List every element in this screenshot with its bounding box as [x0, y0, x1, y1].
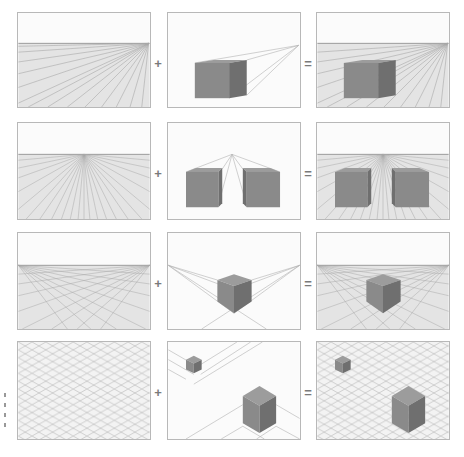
row1-grid-panel — [17, 12, 151, 108]
row3-result-panel — [316, 232, 450, 330]
row3-grid-panel — [17, 232, 151, 330]
row1-object-panel — [167, 12, 301, 108]
equals-operator: = — [301, 167, 315, 181]
two-isometric-cubes-diagram — [168, 342, 300, 439]
row1-result-panel — [316, 12, 450, 108]
plus-operator: + — [151, 57, 165, 71]
two-boxes-in-central-grid-diagram — [317, 123, 449, 219]
cube-front — [195, 63, 229, 98]
row4-grid-panel — [17, 341, 151, 440]
plus-operator: + — [151, 277, 165, 291]
one-point-center-grid-diagram — [18, 123, 150, 219]
row2-grid-panel — [17, 122, 151, 220]
box-with-vanishing-lines-diagram — [168, 13, 300, 107]
two-boxes-central-vanishing-diagram — [168, 123, 300, 219]
equals-operator: = — [301, 386, 315, 400]
row4-result-panel — [316, 341, 450, 440]
cube-in-two-point-grid-diagram — [317, 233, 449, 329]
row2-object-panel — [167, 122, 301, 220]
margin-marks — [2, 393, 8, 433]
row3-object-panel — [167, 232, 301, 330]
one-point-right-grid-diagram — [18, 13, 150, 107]
equals-operator: = — [301, 57, 315, 71]
cube-two-vanishing-points-diagram — [168, 233, 300, 329]
row4-object-panel — [167, 341, 301, 440]
row2-result-panel — [316, 122, 450, 220]
isometric-grid-diagram — [18, 342, 150, 439]
cubes-on-isometric-grid-diagram — [317, 342, 449, 439]
two-point-grid-diagram — [18, 233, 150, 329]
equals-operator: = — [301, 277, 315, 291]
plus-operator: + — [151, 167, 165, 181]
box-in-one-point-grid-diagram — [317, 13, 449, 107]
plus-operator: + — [151, 386, 165, 400]
cube-side — [229, 60, 247, 98]
